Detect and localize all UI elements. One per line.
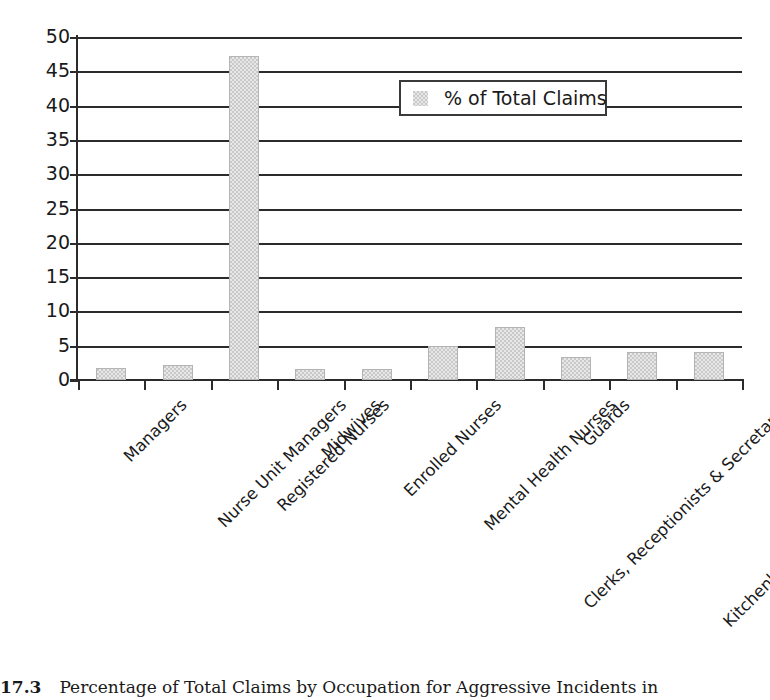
y-tick-mark: [70, 380, 78, 382]
y-tick-label: 15: [26, 267, 70, 286]
bar: [295, 369, 325, 380]
y-tick-mark: [70, 174, 78, 176]
y-tick-label: 50: [26, 27, 70, 46]
x-tick-mark: [543, 381, 545, 390]
x-tick-mark: [144, 381, 146, 390]
bar: [694, 352, 724, 380]
y-tick-mark: [70, 140, 78, 142]
x-tick-mark: [676, 381, 678, 390]
y-tick-label: 20: [26, 233, 70, 252]
x-tick-label: Enrolled Nurses: [401, 396, 505, 500]
figure-caption-text: Percentage of Total Claims by Occupation…: [59, 677, 658, 697]
bar: [229, 56, 259, 380]
y-tick-label: 25: [26, 199, 70, 218]
figure-number: 17.3: [0, 677, 41, 697]
legend-swatch-icon: [413, 91, 428, 106]
x-tick-mark: [742, 381, 744, 390]
x-tick-mark: [344, 381, 346, 390]
gridline: [78, 346, 742, 348]
y-tick-mark: [70, 71, 78, 73]
y-tick-label: 35: [26, 130, 70, 149]
gridline: [78, 209, 742, 211]
x-tick-mark: [476, 381, 478, 390]
y-tick-label: 0: [26, 370, 70, 389]
figure-container: 05101520253035404550 ManagersNurse Unit …: [0, 0, 770, 700]
x-tick-mark: [211, 381, 213, 390]
y-tick-mark: [70, 277, 78, 279]
figure-caption: 17.3Percentage of Total Claims by Occupa…: [0, 676, 770, 698]
gridline: [78, 174, 742, 176]
x-tick-label: Managers: [121, 396, 190, 465]
gridline: [78, 277, 742, 279]
x-tick-mark: [410, 381, 412, 390]
x-tick-mark: [277, 381, 279, 390]
y-tick-label: 45: [26, 61, 70, 80]
bar: [163, 365, 193, 380]
y-tick-mark: [70, 311, 78, 313]
gridline: [78, 243, 742, 245]
y-tick-label: 10: [26, 301, 70, 320]
y-tick-mark: [70, 106, 78, 108]
gridline: [78, 37, 742, 39]
bar: [362, 369, 392, 380]
bar: [561, 357, 591, 380]
gridline: [78, 311, 742, 313]
legend-label: % of Total Claims: [444, 89, 607, 108]
y-tick-mark: [70, 346, 78, 348]
bar: [428, 346, 458, 380]
y-tick-mark: [70, 37, 78, 39]
chart-legend: % of Total Claims: [399, 80, 607, 116]
bar: [627, 352, 657, 380]
y-tick-label: 30: [26, 164, 70, 183]
gridline: [78, 71, 742, 73]
bar: [96, 368, 126, 380]
x-tick-mark: [78, 381, 80, 390]
y-tick-mark: [70, 243, 78, 245]
bar: [495, 327, 525, 381]
y-tick-label: 40: [26, 96, 70, 115]
y-tick-label: 5: [26, 336, 70, 355]
gridline: [78, 140, 742, 142]
x-tick-mark: [609, 381, 611, 390]
y-tick-mark: [70, 209, 78, 211]
